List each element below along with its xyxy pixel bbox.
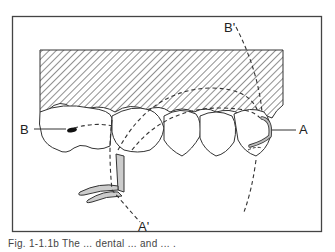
figure-caption: Fig. 1-1.1b The ... dental ... and ... . <box>8 238 335 249</box>
label-b-prime: B' <box>224 20 235 35</box>
label-a: A <box>299 122 308 137</box>
dental-diagram: B A B' A' <box>0 0 335 252</box>
tooth-2 <box>112 108 164 152</box>
label-b: B <box>20 122 29 137</box>
tooth-4 <box>200 112 236 156</box>
tooth-5 <box>234 109 270 156</box>
tooth-3 <box>164 110 201 156</box>
label-a-prime: A' <box>138 219 149 234</box>
